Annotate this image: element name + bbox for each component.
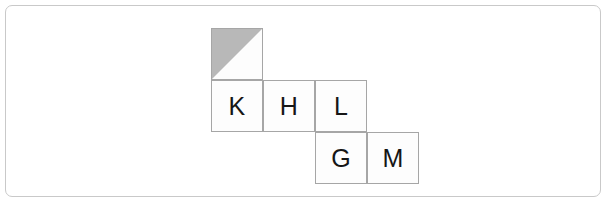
net-cell-label: H bbox=[280, 94, 298, 119]
net-cell-label: K bbox=[229, 94, 246, 119]
net-cell-k: K bbox=[211, 80, 263, 132]
net-cell-label: M bbox=[382, 146, 403, 171]
net-cell-m: M bbox=[367, 132, 419, 184]
cube-net-figure: KHLGM bbox=[0, 0, 608, 208]
net-cell-l: L bbox=[315, 80, 367, 132]
net-cell-h: H bbox=[263, 80, 315, 132]
net-cell-shaded bbox=[211, 28, 263, 80]
shaded-triangle-marking bbox=[212, 29, 262, 79]
net-cell-label: G bbox=[331, 146, 351, 171]
net-cell-g: G bbox=[315, 132, 367, 184]
net-cell-label: L bbox=[334, 94, 348, 119]
